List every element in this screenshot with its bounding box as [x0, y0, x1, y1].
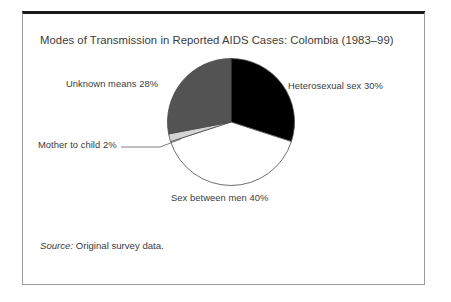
pie-label-heterosexual-sex: Heterosexual sex 30% — [288, 80, 383, 91]
pie-slice-group — [167, 58, 294, 185]
chart-title: Modes of Transmission in Reported AIDS C… — [40, 34, 394, 46]
pie-label-mother-to-child: Mother to child 2% — [38, 139, 117, 150]
mother-to-child-leader-line — [120, 130, 190, 156]
source-note: Source: Original survey data. — [40, 240, 164, 251]
pie-label-unknown-means: Unknown means 28% — [66, 78, 158, 89]
pie-slice-unknown-means — [167, 58, 231, 133]
pie-label-sex-between-men: Sex between men 40% — [171, 192, 268, 203]
pie-chart — [160, 52, 305, 194]
source-label: Source: — [40, 240, 73, 251]
source-text: Original survey data. — [73, 240, 164, 251]
